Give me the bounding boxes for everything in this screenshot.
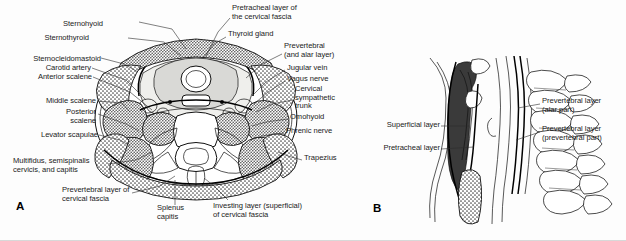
label-sternothyroid: Sternothyroid (0, 34, 89, 43)
label-posterior-scalene: Posterior scalene (0, 108, 96, 125)
label-thyroid-gland: Thyroid gland (228, 30, 308, 39)
label-investing-layer: Investing layer (superficial) of cervica… (213, 202, 333, 219)
label-trapezius: Trapezius (304, 154, 362, 163)
label-cervical-sympathetic-trunk: Cervical sympathetic trunk (295, 85, 361, 111)
label-pretracheal-layer-b: Pretracheal layer (365, 144, 440, 153)
label-prevertebral-layer-alar: Prevertebral layer (alar part) (542, 97, 626, 114)
label-phrenic-nerve: Phrenic nerve (286, 127, 362, 136)
label-prevertebral-layer-prevertebral: Prevertebral layer (prevertebral part) (542, 125, 626, 142)
label-prevertebral-layer-cervical-fascia: Prevertebral layer of cervical fascia (62, 186, 177, 203)
panel-a-axial-section (92, 18, 302, 205)
label-sternohyoid: Sternohyoid (0, 20, 103, 29)
label-prevertebral-alar: Prevertebral (and alar layer) (284, 42, 370, 59)
label-multifidus-semispinalis: Multifidus, semispinalis cervicis, and c… (13, 157, 133, 174)
label-levator-scapulae: Levator scapulae (0, 131, 98, 140)
label-jugular-vein: Jugular vein (287, 64, 357, 73)
label-omohyoid: Omohyoid (290, 113, 352, 122)
label-anterior-scalene: Anterior scalene (0, 73, 92, 82)
label-middle-scalene: Middle scalene (0, 97, 96, 106)
label-superficial-layer: Superficial layer (368, 121, 440, 130)
label-splenus-capitis: Splenus capitis (157, 204, 207, 221)
anatomical-figure: Sternohyoid Sternothyroid Sternocleidoma… (0, 0, 626, 241)
panel-letter-b: B (373, 202, 381, 214)
label-pretracheal-layer: Pretracheal layer of the cervical fascia (232, 4, 342, 21)
label-vagus-nerve: Vagus nerve (287, 75, 359, 84)
panel-letter-a: A (16, 200, 24, 212)
